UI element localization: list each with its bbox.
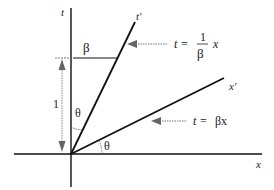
equation-t-prime-lhs: t = [174,37,188,51]
equation-x-prime: t = βx [193,114,227,128]
t-prime-axis [71,22,135,154]
x-prime-axis-label: x′ [228,80,237,92]
angle-theta-lower: θ [104,139,110,153]
equation-t-prime-numerator: 1 [200,30,206,44]
equation-t-prime: t = 1 β x [174,30,219,61]
angle-theta-upper: θ [75,106,81,120]
equation-t-prime-rhs: x [212,37,219,51]
x-axis-label: x [255,158,261,170]
t-prime-axis-label: t′ [136,10,142,22]
unit-length-label: 1 [53,97,59,111]
spacetime-diagram: t x t′ x′ β 1 θ θ t = 1 β x t = βx [0,0,274,190]
equation-x-prime-lhs: t = [193,114,207,128]
equation-x-prime-rhs: βx [215,114,227,128]
pointer-arrow-t-prime [127,40,167,48]
angle-arc-lower [99,141,102,155]
pointer-arrow-x-prime [151,117,186,125]
beta-label: β [83,40,90,55]
t-axis-label: t [61,6,65,18]
angle-arc-upper [71,127,84,130]
equation-t-prime-denominator: β [197,46,204,61]
